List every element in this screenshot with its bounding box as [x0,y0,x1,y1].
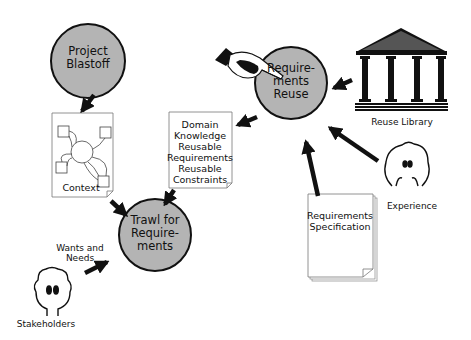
requirements-specification-label: Requirements Specification [305,211,375,232]
label-line: Needs [52,253,108,263]
stakeholders-label: Stakeholders [14,319,78,329]
activity-label-trawl: Trawl for Require- ments [122,214,188,253]
label-line: Reusable [166,141,234,152]
label-line: Require- [258,62,324,75]
activity-label-project-blastoff: Project Blastoff [58,45,118,71]
activity-label-requirements-reuse: Require- ments Reuse [258,62,324,101]
label-line: Reuse [258,88,324,101]
wants-and-needs-label: Wants and Needs [52,243,108,263]
label-line: ments [258,75,324,88]
context-label: Context [56,183,106,194]
temple-icon [355,28,448,111]
label-line: Project [58,45,118,58]
arrow-experience-to-reuse [330,128,378,161]
arrow-spec-to-reuse [306,142,318,196]
label-line: Reusable [166,163,234,174]
label-line: ments [122,240,188,253]
requirements-specification-document [308,194,377,281]
label-line: Knowledge [166,130,234,141]
label-line: Requirements [166,152,234,163]
domain-knowledge-label: Domain Knowledge Reusable Requirements R… [166,119,234,185]
label-line: Constraints [166,174,234,185]
label-line: Require- [122,227,188,240]
experience-label: Experience [384,201,440,211]
arrow-reuse-to-domain [238,117,257,125]
arrow-context-to-trawl [111,201,126,215]
stakeholder-head-icon [34,268,71,317]
arrow-needs-to-trawl [85,262,107,273]
label-line: Wants and [52,243,108,253]
reuse-library-label: Reuse Library [366,117,438,127]
label-line: Trawl for [122,214,188,227]
experience-face-icon [385,142,429,186]
arrow-library-to-reuse [334,80,352,88]
label-line: Domain [166,119,234,130]
label-line: Blastoff [58,58,118,71]
label-line: Specification [305,222,375,233]
